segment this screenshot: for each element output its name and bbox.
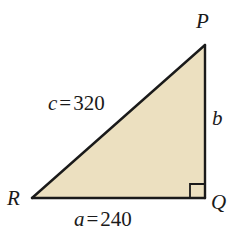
- vertex-label-p: P: [196, 11, 209, 32]
- vertex-label-r: R: [7, 188, 20, 209]
- side-variable-b: b: [212, 106, 223, 130]
- side-label-vertical-leg: b: [212, 108, 223, 129]
- vertex-label-q: Q: [211, 192, 226, 213]
- side-label-hypotenuse: c=320: [48, 93, 105, 114]
- side-value-a: 240: [100, 207, 132, 231]
- equals-sign-c: =: [57, 91, 73, 115]
- side-variable-a: a: [74, 207, 85, 231]
- side-value-c: 320: [73, 91, 105, 115]
- side-label-base: a=240: [74, 209, 132, 230]
- side-variable-c: c: [48, 91, 57, 115]
- geometry-figure: P Q R c=320 a=240 b: [0, 0, 243, 234]
- triangle-drawing: [0, 0, 243, 234]
- equals-sign-a: =: [85, 207, 101, 231]
